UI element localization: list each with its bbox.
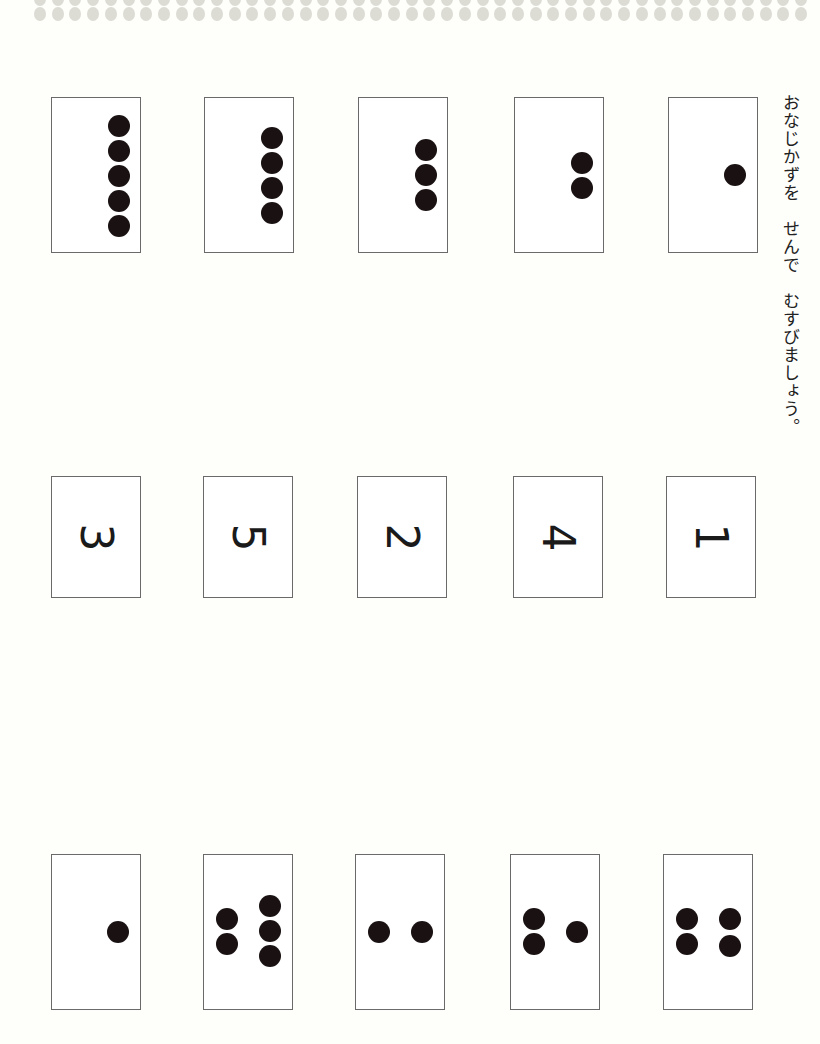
bottom-dot-card-3	[510, 854, 600, 1010]
band-dot-icon	[600, 7, 612, 21]
band-dot-icon	[335, 7, 347, 21]
band-dot-icon	[583, 7, 595, 21]
dot-icon	[719, 935, 741, 957]
band-dot-icon	[654, 7, 666, 21]
band-dot-icon	[353, 0, 365, 6]
top-dot-card-5	[51, 97, 141, 253]
band-dot-icon	[530, 7, 542, 21]
dot-icon	[571, 177, 593, 199]
dot-icon	[676, 933, 698, 955]
dot-icon	[261, 127, 283, 149]
band-dot-icon	[618, 0, 630, 6]
band-dot-icon	[193, 7, 205, 21]
band-dot-icon	[512, 7, 524, 21]
decorative-dot-band	[0, 0, 820, 26]
band-dot-icon	[459, 0, 471, 6]
band-dot-icon	[388, 7, 400, 21]
band-dot-icon	[530, 0, 542, 6]
dot-icon	[216, 908, 238, 930]
bottom-dot-card-1	[51, 854, 141, 1010]
band-dot-icon	[123, 0, 135, 6]
band-dot-icon	[69, 7, 81, 21]
band-dot-icon	[158, 0, 170, 6]
band-dot-icon	[671, 7, 683, 21]
band-dot-icon	[477, 7, 489, 21]
band-dot-icon	[760, 7, 772, 21]
band-dot-icon	[547, 7, 559, 21]
band-dot-icon	[52, 7, 64, 21]
numeral-label: 2	[377, 523, 428, 551]
numeral-label: 3	[71, 523, 122, 551]
dot-icon	[719, 908, 741, 930]
band-dot-icon	[724, 0, 736, 6]
band-dot-icon	[583, 0, 595, 6]
band-dot-icon	[69, 0, 81, 6]
dot-icon	[108, 165, 130, 187]
number-card-3: 3	[51, 476, 141, 598]
band-dot-icon	[512, 0, 524, 6]
band-dot-icon	[565, 0, 577, 6]
band-dot-icon	[600, 0, 612, 6]
bottom-dot-card-5	[203, 854, 293, 1010]
band-dot-icon	[618, 7, 630, 21]
band-dot-icon	[795, 0, 807, 6]
band-dot-icon	[707, 7, 719, 21]
band-dot-icon	[795, 7, 807, 21]
band-dot-icon	[140, 0, 152, 6]
band-dot-icon	[654, 0, 666, 6]
band-dot-icon	[370, 0, 382, 6]
band-dot-icon	[158, 7, 170, 21]
band-dot-icon	[636, 0, 648, 6]
band-dot-icon	[229, 0, 241, 6]
band-dot-icon	[565, 7, 577, 21]
dot-icon	[259, 895, 281, 917]
band-dot-icon	[494, 7, 506, 21]
dot-icon	[259, 920, 281, 942]
dot-icon	[676, 908, 698, 930]
band-dot-icon	[636, 7, 648, 21]
band-dot-icon	[335, 0, 347, 6]
bottom-dot-card-4	[663, 854, 753, 1010]
band-dot-icon	[477, 0, 489, 6]
band-dot-icon	[246, 7, 258, 21]
band-dot-icon	[105, 7, 117, 21]
band-dot-icon	[441, 0, 453, 6]
band-dot-icon	[742, 0, 754, 6]
band-dot-icon	[423, 7, 435, 21]
band-dot-icon	[176, 0, 188, 6]
dot-icon	[523, 908, 545, 930]
bottom-dot-card-2	[355, 854, 445, 1010]
band-dot-icon	[264, 0, 276, 6]
dot-icon	[411, 921, 433, 943]
band-dot-icon	[689, 7, 701, 21]
band-dot-icon	[87, 0, 99, 6]
top-dot-card-3	[358, 97, 448, 253]
band-dot-icon	[34, 0, 46, 6]
dot-icon	[571, 152, 593, 174]
dot-icon	[259, 945, 281, 967]
band-dot-icon	[406, 7, 418, 21]
band-dot-icon	[211, 7, 223, 21]
instruction-text: おなじかずを せんで むすびましょう。	[778, 94, 803, 436]
band-dot-icon	[34, 7, 46, 21]
band-dot-icon	[459, 7, 471, 21]
band-dot-icon	[282, 0, 294, 6]
dot-icon	[108, 115, 130, 137]
band-dot-icon	[193, 0, 205, 6]
dot-icon	[107, 921, 129, 943]
band-dot-icon	[353, 7, 365, 21]
band-dot-icon	[246, 0, 258, 6]
band-dot-icon	[760, 0, 772, 6]
numeral-label: 4	[533, 523, 584, 551]
top-dot-card-4	[204, 97, 294, 253]
number-card-4: 4	[513, 476, 603, 598]
band-dot-icon	[494, 0, 506, 6]
band-dot-icon	[388, 0, 400, 6]
band-dot-icon	[707, 0, 719, 6]
dot-icon	[108, 215, 130, 237]
band-dot-icon	[689, 0, 701, 6]
dot-icon	[415, 164, 437, 186]
band-dot-icon	[282, 7, 294, 21]
dot-icon	[368, 921, 390, 943]
dot-icon	[724, 164, 746, 186]
